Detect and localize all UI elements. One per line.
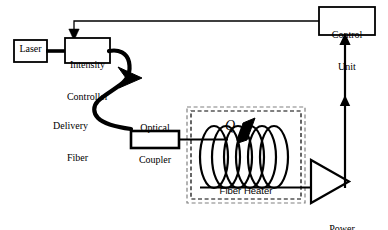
power-meter-label: Power Meter bbox=[318, 203, 366, 230]
power-meter-detector bbox=[311, 160, 349, 203]
optical-coupler-label-line1: Optical bbox=[126, 123, 184, 134]
heat-flux-label: Q bbox=[225, 119, 235, 134]
heat-flux-arrow-icon bbox=[236, 118, 255, 143]
fiber-heater-schematic-figure: Laser Intensity Controller Control Unit … bbox=[0, 0, 388, 230]
fiber-heater-label: Fiber Heater bbox=[200, 186, 292, 196]
intensity-controller-label-line1: Intensity bbox=[65, 60, 110, 71]
delivery-fiber-label-line1: Delivery bbox=[32, 121, 88, 132]
delivery-fiber-label: Delivery Fiber bbox=[32, 100, 88, 184]
optical-coupler-label-line2: Coupler bbox=[126, 155, 184, 166]
control-unit-label-line2: Unit bbox=[319, 62, 375, 73]
control-unit-label: Control Unit bbox=[319, 9, 375, 93]
signal-arrowhead-mid-icon bbox=[340, 95, 350, 106]
power-meter-label-line1: Power bbox=[318, 224, 366, 230]
laser-label: Laser bbox=[14, 44, 47, 55]
delivery-fiber-label-line2: Fiber bbox=[32, 153, 88, 164]
control-unit-label-line1: Control bbox=[319, 30, 375, 41]
optical-coupler-label: Optical Coupler bbox=[126, 102, 184, 186]
